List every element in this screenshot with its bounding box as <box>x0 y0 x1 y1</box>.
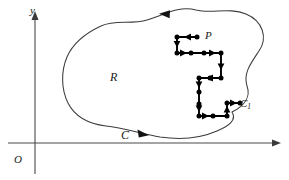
node-dot <box>211 114 216 119</box>
segment-arrow-down <box>174 41 181 48</box>
node-dot <box>195 35 200 40</box>
segment-arrow-down <box>196 82 203 89</box>
node-dot <box>175 51 180 56</box>
figure-canvas <box>0 0 289 180</box>
outer-curve-label: C <box>121 129 129 141</box>
inner-curve-label-subscript: 1 <box>247 102 251 111</box>
node-dot <box>197 114 202 119</box>
node-dot <box>202 51 207 56</box>
segment-arrow-right <box>180 50 187 57</box>
inner-curve-label: C1 <box>240 98 251 109</box>
segment-arrow-right <box>230 100 237 107</box>
segment-arrow-down <box>196 106 203 113</box>
origin-label: O <box>14 154 22 165</box>
segment-arrow-right <box>202 113 209 120</box>
segment-arrow-right <box>209 50 216 57</box>
node-dot <box>225 114 230 119</box>
node-dot <box>225 101 230 106</box>
outer-curve-c <box>63 9 264 139</box>
node-dot <box>219 51 224 56</box>
outer-curve-top-arrowhead <box>159 10 170 18</box>
staircase-nodes <box>175 35 243 119</box>
x-axis-arrowhead <box>272 140 281 147</box>
segment-arrow-down <box>218 64 225 71</box>
node-dot <box>175 35 180 40</box>
outer-curve-group <box>63 9 264 139</box>
node-dot <box>197 76 202 81</box>
point-p-label: P <box>205 30 212 41</box>
segment-arrow-left <box>184 34 191 41</box>
greens-theorem-figure: y O R C P C1 <box>0 0 289 180</box>
node-dot <box>219 76 224 81</box>
coordinate-axes <box>8 11 281 174</box>
inner-staircase-path-group <box>174 34 243 120</box>
node-dot <box>189 51 194 56</box>
outer-curve-bottom-arrowhead <box>138 130 150 138</box>
y-axis-label: y <box>30 5 35 16</box>
segment-arrow-up <box>224 106 231 113</box>
node-dot <box>197 90 202 95</box>
region-label: R <box>110 71 117 83</box>
